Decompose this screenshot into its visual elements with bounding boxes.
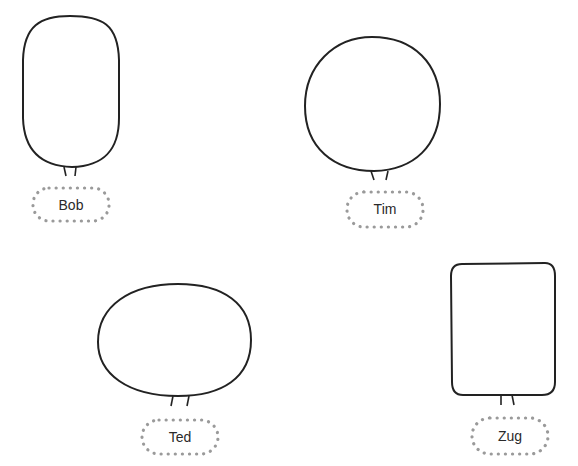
ted-label: Ted (140, 429, 220, 445)
bob-label: Bob (31, 197, 111, 213)
characters-diagram (0, 0, 578, 466)
tim-label: Tim (345, 201, 425, 217)
zug-leg-right (512, 395, 514, 405)
ted-leg-left (171, 396, 173, 406)
tim-leg-right (386, 171, 388, 180)
character-bob (23, 16, 119, 221)
character-tim (305, 37, 440, 227)
bob-leg-left (64, 167, 66, 176)
tim-leg-left (371, 171, 374, 180)
tim-body-circle (305, 37, 440, 171)
zug-body-rounded-rectangle (451, 263, 555, 395)
bob-body-tall-oval (23, 16, 119, 167)
ted-leg-right (187, 396, 189, 406)
character-zug (451, 263, 555, 454)
zug-label: Zug (470, 428, 550, 444)
ted-body-wide-oval (98, 284, 251, 396)
bob-leg-right (75, 167, 76, 176)
